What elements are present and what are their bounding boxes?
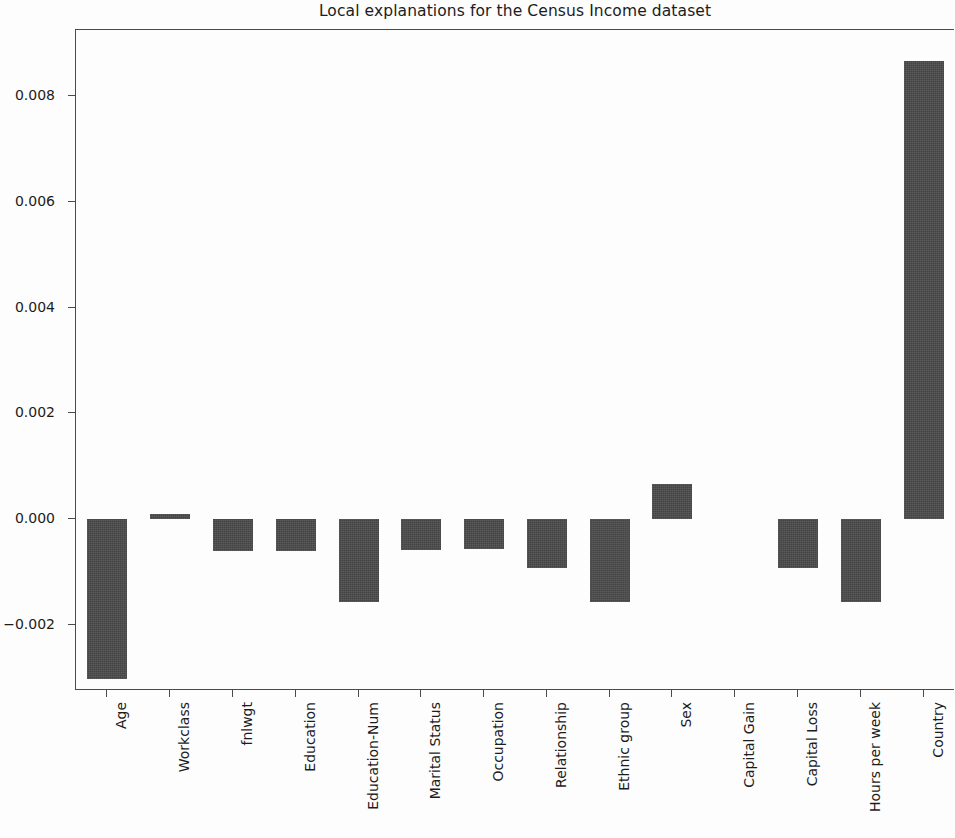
x-axis-tick-label: Sex bbox=[678, 702, 694, 728]
x-axis-tick-label: Age bbox=[113, 702, 129, 729]
y-axis-tick-label: 0.006 bbox=[15, 193, 62, 209]
x-axis-tick-label: Relationship bbox=[553, 702, 569, 788]
bar[interactable] bbox=[590, 519, 630, 601]
y-axis-tick bbox=[68, 412, 75, 413]
x-axis-tick-label: Ethnic group bbox=[616, 702, 632, 791]
x-axis-tick-label: Capital Gain bbox=[741, 702, 757, 788]
x-axis-tick bbox=[232, 690, 233, 697]
x-axis-tick bbox=[358, 690, 359, 697]
x-axis-tick-label: Workclass bbox=[176, 702, 192, 772]
x-axis-tick bbox=[420, 690, 421, 697]
chart-figure: Local explanations for the Census Income… bbox=[0, 0, 955, 838]
x-axis-tick bbox=[295, 690, 296, 697]
x-axis-tick-label: Country bbox=[930, 702, 946, 758]
y-axis-tick-label: 0.008 bbox=[15, 87, 62, 103]
bar[interactable] bbox=[276, 519, 316, 551]
x-axis-tick bbox=[169, 690, 170, 697]
x-axis-tick-label: Education-Num bbox=[365, 702, 381, 810]
y-axis-tick-label: 0.004 bbox=[15, 299, 62, 315]
y-axis-tick bbox=[68, 518, 75, 519]
bar[interactable] bbox=[778, 519, 818, 568]
x-axis-tick bbox=[609, 690, 610, 697]
x-axis-tick bbox=[483, 690, 484, 697]
y-axis-tick bbox=[68, 201, 75, 202]
x-axis-tick bbox=[546, 690, 547, 697]
bar[interactable] bbox=[904, 61, 944, 519]
bar[interactable] bbox=[213, 519, 253, 551]
y-axis-tick bbox=[68, 307, 75, 308]
x-axis-tick bbox=[671, 690, 672, 697]
x-axis-tick bbox=[923, 690, 924, 697]
bar[interactable] bbox=[87, 519, 127, 679]
bar[interactable] bbox=[527, 519, 567, 568]
bar[interactable] bbox=[401, 519, 441, 550]
bars-layer bbox=[76, 30, 954, 689]
x-axis-tick bbox=[860, 690, 861, 697]
x-axis-tick-label: Capital Loss bbox=[804, 702, 820, 786]
y-axis-tick-label: 0.002 bbox=[15, 404, 62, 420]
x-axis-tick bbox=[106, 690, 107, 697]
x-axis-tick bbox=[734, 690, 735, 697]
y-axis-tick bbox=[68, 95, 75, 96]
bar[interactable] bbox=[339, 519, 379, 601]
y-axis-tick bbox=[68, 624, 75, 625]
bar[interactable] bbox=[841, 519, 881, 601]
bar[interactable] bbox=[652, 484, 692, 519]
bar[interactable] bbox=[464, 519, 504, 549]
chart-title: Local explanations for the Census Income… bbox=[75, 2, 955, 20]
x-axis-tick bbox=[797, 690, 798, 697]
bar[interactable] bbox=[150, 514, 190, 519]
y-axis-tick-label: −0.002 bbox=[3, 616, 62, 632]
x-axis-tick-label: Marital Status bbox=[427, 702, 443, 799]
x-axis-tick-label: Occupation bbox=[490, 702, 506, 782]
y-axis-tick-label: 0.000 bbox=[15, 510, 62, 526]
x-axis-tick-label: fnlwgt bbox=[239, 702, 255, 746]
plot-area bbox=[75, 29, 954, 690]
x-axis-tick-label: Education bbox=[302, 702, 318, 772]
x-axis-tick-label: Hours per week bbox=[867, 702, 883, 812]
